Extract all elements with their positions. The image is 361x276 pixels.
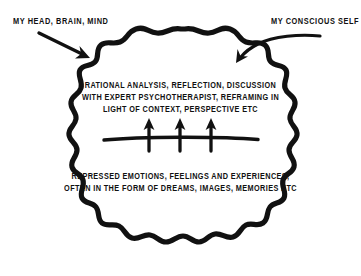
upward-arrow-icon-2	[175, 118, 186, 151]
unconscious-region-text: REPRESSED EMOTIONS, FEELINGS AND EXPERIE…	[0, 171, 361, 195]
unconscious-line-1: REPRESSED EMOTIONS, FEELINGS AND EXPERIE…	[0, 171, 361, 182]
straight-arrow-down-right-icon	[39, 33, 90, 59]
curved-arrow-down-left-icon	[236, 35, 320, 63]
conscious-line-2: WITH EXPERT PSYCHOTHERAPIST, REFRAMING I…	[0, 92, 361, 103]
conscious-line-1: RATIONAL ANALYSIS, REFLECTION, DISCUSSIO…	[0, 80, 361, 91]
label-my-conscious-self: MY CONSCIOUS SELF	[271, 17, 359, 26]
wavy-cloud-outline-icon	[69, 28, 297, 242]
conscious-line-3: LIGHT OF CONTEXT, PERSPECTIVE ETC	[0, 104, 361, 115]
label-my-head-brain-mind: MY HEAD, BRAIN, MIND	[13, 17, 108, 26]
conscious-region-text: RATIONAL ANALYSIS, REFLECTION, DISCUSSIO…	[0, 80, 361, 116]
diagram-illustration	[0, 0, 361, 276]
upward-arrow-icon-1	[144, 118, 155, 151]
diagram-canvas: MY HEAD, BRAIN, MIND MY CONSCIOUS SELF R…	[0, 0, 361, 276]
unconscious-line-2: OFTEN IN THE FORM OF DREAMS, IMAGES, MEM…	[0, 183, 361, 194]
upward-arrow-icon-3	[206, 118, 217, 151]
